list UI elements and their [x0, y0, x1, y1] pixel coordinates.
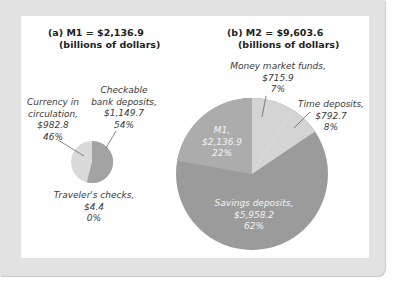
label-checkable: Checkable bank deposits, $1,149.7 54% — [91, 85, 157, 131]
label-m1: M1, $2,136.9 22% — [202, 125, 242, 160]
label-money-market: Money market funds, $715.9 7% — [230, 61, 326, 96]
label-travelers: Traveler's checks, $4.4 0% — [54, 190, 135, 225]
label-time: Time deposits, $792.7 8% — [298, 99, 364, 134]
leader-checkable — [106, 131, 116, 148]
label-savings: Savings deposits, $5,958.2 62% — [215, 198, 294, 233]
chart-a-title: (a) M1 = $2,136.9 (billions of dollars) — [48, 27, 160, 51]
label-currency: Currency in circulation, $982.8 46% — [27, 97, 79, 143]
chart-b-title: (b) M2 = $9,603.6 (billions of dollars) — [227, 27, 339, 51]
